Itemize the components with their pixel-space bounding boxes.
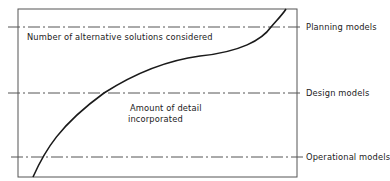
label-operational-models: Operational models [306, 152, 390, 162]
label-planning-models: Planning models [306, 22, 377, 32]
annotation-detail-line1: Amount of detail [130, 103, 202, 113]
label-design-models: Design models [306, 88, 369, 98]
annotation-alternatives: Number of alternative solutions consider… [27, 32, 213, 42]
annotation-detail-line2: incorporated [128, 114, 183, 124]
